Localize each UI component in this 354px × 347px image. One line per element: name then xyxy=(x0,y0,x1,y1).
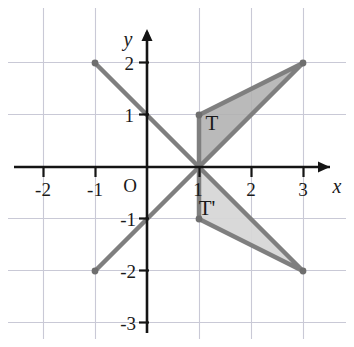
x-axis-name: x xyxy=(332,175,342,197)
x-tick-label-neg2: -2 xyxy=(35,179,51,200)
y-tick-label-neg2: -2 xyxy=(120,261,136,282)
x-axis-arrowhead xyxy=(318,162,330,173)
triangle-t-label: T xyxy=(206,111,219,135)
vertex-dot xyxy=(196,112,203,119)
grid-lines xyxy=(8,8,346,339)
coordinate-plane-svg: -2 -1 1 2 3 2 1 -1 -2 -3 x y O T T' xyxy=(0,0,354,347)
y-axis-arrowhead xyxy=(142,29,153,41)
triangle-t-prime-label: T' xyxy=(199,196,216,220)
vertex-dot xyxy=(92,268,99,275)
y-tick-label-neg3: -3 xyxy=(120,313,136,334)
x-tick-label-3: 3 xyxy=(298,179,308,200)
y-tick-label-1: 1 xyxy=(125,105,135,126)
figure-canvas: -2 -1 1 2 3 2 1 -1 -2 -3 x y O T T' xyxy=(0,0,354,347)
origin-label: O xyxy=(123,175,137,196)
y-axis-name: y xyxy=(122,28,133,51)
y-tick-label-neg1: -1 xyxy=(120,209,136,230)
x-tick-label-2: 2 xyxy=(246,179,256,200)
vertex-dot xyxy=(300,60,307,67)
vertex-dot xyxy=(300,268,307,275)
y-tick-label-2: 2 xyxy=(125,53,135,74)
x-tick-label-neg1: -1 xyxy=(87,179,103,200)
vertex-dot xyxy=(92,60,99,67)
